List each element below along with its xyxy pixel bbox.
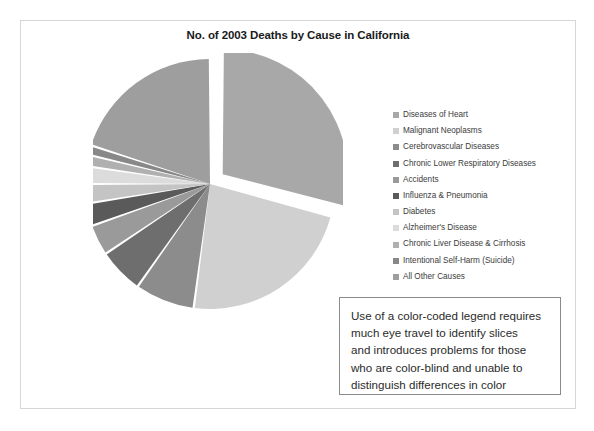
legend-swatch-icon — [393, 258, 399, 264]
legend-item-label: Intentional Self-Harm (Suicide) — [403, 257, 515, 265]
legend-item[interactable]: Diabetes — [373, 204, 573, 220]
annotation-line: Use of a color-coded legend requires — [351, 307, 550, 324]
legend-item-label: Diabetes — [403, 208, 435, 216]
legend-item-label: Malignant Neoplasms — [403, 127, 482, 135]
pie-slice[interactable] — [223, 53, 343, 205]
annotation-callout: Use of a color-coded legend requires muc… — [339, 297, 561, 395]
legend-item-label: Influenza & Pneumonia — [403, 192, 488, 200]
legend-swatch-icon — [393, 161, 399, 167]
legend-item-label: Chronic Lower Respiratory Diseases — [403, 160, 536, 168]
legend-item-label: Alzheimer's Disease — [403, 224, 477, 232]
pie-slice-group — [93, 53, 343, 309]
annotation-line: who are color-blind and unable to — [351, 359, 550, 376]
annotation-line: much eye travel to identify slices — [351, 324, 550, 341]
legend-swatch-icon — [393, 225, 399, 231]
legend-item-label: Cerebrovascular Diseases — [403, 143, 499, 151]
legend-swatch-icon — [393, 274, 399, 280]
legend-swatch-icon — [393, 112, 399, 118]
legend-swatch-icon — [393, 177, 399, 183]
chart-legend: Diseases of HeartMalignant NeoplasmsCere… — [373, 107, 573, 285]
legend-swatch-icon — [393, 209, 399, 215]
page-title: No. of 2003 Deaths by Cause in Californi… — [21, 29, 575, 41]
legend-item[interactable]: Diseases of Heart — [373, 107, 573, 123]
legend-item[interactable]: Cerebrovascular Diseases — [373, 139, 573, 155]
legend-item[interactable]: Chronic Liver Disease & Cirrhosis — [373, 237, 573, 253]
legend-item-label: Chronic Liver Disease & Cirrhosis — [403, 240, 525, 248]
legend-swatch-icon — [393, 193, 399, 199]
legend-swatch-icon — [393, 144, 399, 150]
legend-item[interactable]: Chronic Lower Respiratory Diseases — [373, 156, 573, 172]
pie-chart — [93, 53, 343, 315]
slide-frame: No. of 2003 Deaths by Cause in Californi… — [20, 20, 576, 409]
legend-item-label: Accidents — [403, 176, 439, 184]
legend-item[interactable]: All Other Causes — [373, 269, 573, 285]
pie-slice[interactable] — [195, 184, 331, 309]
legend-item[interactable]: Alzheimer's Disease — [373, 220, 573, 236]
legend-item[interactable]: Intentional Self-Harm (Suicide) — [373, 253, 573, 269]
legend-item-label: All Other Causes — [403, 273, 465, 281]
legend-item[interactable]: Accidents — [373, 172, 573, 188]
legend-swatch-icon — [393, 242, 399, 248]
legend-item-label: Diseases of Heart — [403, 111, 468, 119]
pie-chart-svg — [93, 53, 343, 315]
legend-item[interactable]: Influenza & Pneumonia — [373, 188, 573, 204]
annotation-line: distinguish differences in color — [351, 376, 550, 393]
legend-item[interactable]: Malignant Neoplasms — [373, 123, 573, 139]
legend-swatch-icon — [393, 128, 399, 134]
annotation-line: and introduces problems for those — [351, 341, 550, 358]
